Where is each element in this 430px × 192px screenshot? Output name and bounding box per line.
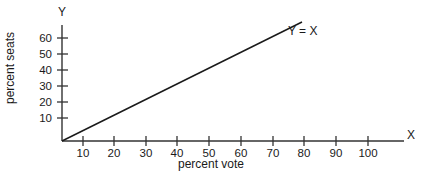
y-axis-name: Y xyxy=(58,6,66,18)
x-tick-label: 90 xyxy=(324,148,348,160)
y-tick-label: 50 xyxy=(30,49,52,61)
x-axis-title: percent vote xyxy=(163,158,259,170)
x-tick-label: 10 xyxy=(71,148,95,160)
x-tick-label: 80 xyxy=(292,148,316,160)
y-tick-label: 20 xyxy=(30,97,52,109)
y-axis-title-wrap: percent seats xyxy=(0,0,20,150)
y-axis-title: percent seats xyxy=(4,22,16,114)
y-tick-label: 40 xyxy=(30,65,52,77)
data-line-y-equals-x xyxy=(62,22,302,141)
chart-figure: Y X 10 20 30 40 50 60 10 20 30 40 50 60 … xyxy=(0,0,430,192)
y-tick-label: 30 xyxy=(30,81,52,93)
x-axis-name: X xyxy=(407,129,415,141)
x-tick-label: 70 xyxy=(261,148,285,160)
x-tick-label: 20 xyxy=(102,148,126,160)
x-tick-label: 100 xyxy=(356,148,380,160)
series-annotation-y-equals-x: Y = X xyxy=(288,25,317,37)
x-tick-label: 30 xyxy=(134,148,158,160)
y-tick-label: 60 xyxy=(30,33,52,45)
y-tick-label: 10 xyxy=(30,113,52,125)
